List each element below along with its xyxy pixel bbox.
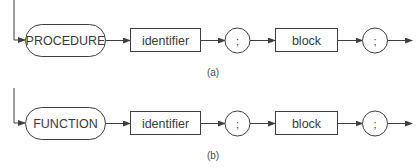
nonterminal-box-block: block [276,29,338,52]
syntax-row-function: FUNCTION identifier ; block ; (b) [14,88,412,161]
terminal-circle-semicolon: ; [225,28,250,53]
node-label: ; [373,118,376,130]
terminal-circle-semicolon: ; [363,111,388,136]
node-label: identifier [142,117,189,131]
entry-line [14,0,25,40]
figure-caption: (a) [207,67,219,78]
nonterminal-box-identifier: identifier [131,29,201,52]
entry-line [14,88,25,123]
node-label: block [292,117,322,131]
figure-caption: (b) [207,150,219,161]
node-label: PROCEDURE [26,34,106,48]
terminal-pill-function: FUNCTION [26,108,106,140]
nonterminal-box-block: block [276,112,338,135]
terminal-circle-semicolon: ; [363,28,388,53]
terminal-circle-semicolon: ; [225,111,250,136]
syntax-row-procedure: PROCEDURE identifier ; block ; (a) [14,0,412,78]
node-label: ; [373,35,376,47]
node-label: ; [236,118,239,130]
node-label: block [292,34,322,48]
terminal-pill-procedure: PROCEDURE [26,25,106,57]
nonterminal-box-identifier: identifier [131,112,201,135]
node-label: ; [236,35,239,47]
syntax-diagram: PROCEDURE identifier ; block ; (a) [0,0,418,167]
node-label: identifier [142,34,189,48]
node-label: FUNCTION [33,117,98,131]
